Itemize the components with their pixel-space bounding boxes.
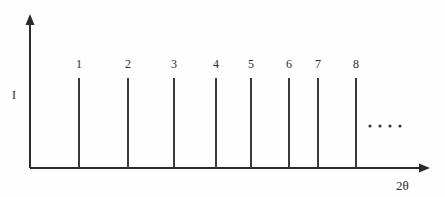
ellipsis-dot bbox=[378, 124, 381, 127]
y-axis-arrowhead bbox=[26, 14, 35, 25]
y-axis-group bbox=[26, 14, 35, 168]
peak-label: 4 bbox=[213, 58, 219, 70]
peak-label: 2 bbox=[125, 58, 131, 70]
ellipsis-dot bbox=[388, 124, 391, 127]
y-axis-label: I bbox=[12, 89, 16, 101]
peaks-group bbox=[79, 78, 356, 168]
diagram-canvas bbox=[0, 0, 445, 197]
peak-label: 7 bbox=[315, 58, 321, 70]
peak-label: 6 bbox=[286, 58, 292, 70]
peak-label: 5 bbox=[248, 58, 254, 70]
ellipsis-dot bbox=[398, 124, 401, 127]
peak-label: 8 bbox=[353, 58, 359, 70]
x-axis-arrowhead bbox=[419, 164, 430, 173]
diffraction-pattern-diagram: 12345678 I 2θ bbox=[0, 0, 445, 197]
x-axis-group bbox=[30, 164, 430, 173]
peak-label: 1 bbox=[76, 58, 82, 70]
ellipsis-dot bbox=[368, 124, 371, 127]
x-axis-label: 2θ bbox=[396, 179, 409, 192]
continuation-ellipsis bbox=[368, 124, 401, 127]
peak-label: 3 bbox=[171, 58, 177, 70]
